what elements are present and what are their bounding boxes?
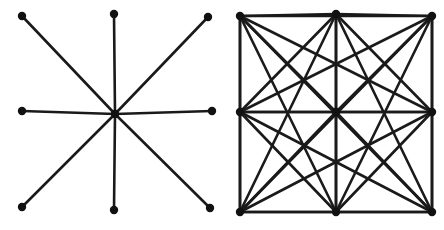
graph-node — [332, 208, 340, 216]
graph-node — [332, 10, 340, 18]
star-graph-panel — [18, 10, 216, 214]
graph-edge — [115, 17, 208, 114]
graph-node — [332, 108, 340, 116]
graph-edge — [22, 111, 115, 114]
graph-node — [428, 208, 436, 216]
graph-edge — [114, 14, 115, 114]
graph-node — [18, 107, 26, 115]
graph-node — [208, 107, 216, 115]
graph-edge — [115, 111, 212, 114]
complete-graph-panel — [236, 10, 436, 216]
graph-node — [236, 12, 244, 20]
graph-edge — [115, 114, 210, 208]
graph-figure-canvas — [0, 0, 444, 230]
graph-node — [111, 110, 119, 118]
graph-edge — [114, 114, 115, 210]
graph-node — [428, 108, 436, 116]
graph-node — [18, 12, 26, 20]
graph-edge — [22, 114, 115, 207]
graph-node — [236, 108, 244, 116]
graph-node — [110, 206, 118, 214]
graph-node — [18, 203, 26, 211]
graph-node — [204, 13, 212, 21]
graph-node — [206, 204, 214, 212]
graph-node — [110, 10, 118, 18]
graph-node — [428, 12, 436, 20]
graph-edge — [22, 16, 115, 114]
graph-node — [236, 208, 244, 216]
